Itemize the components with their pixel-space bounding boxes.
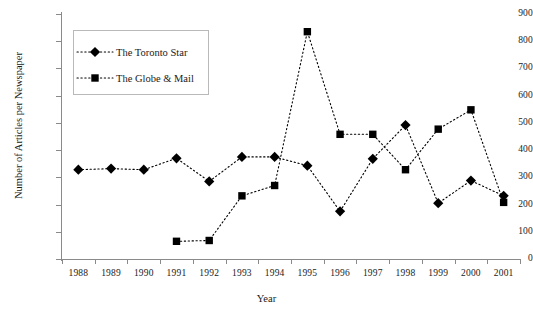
diamond-marker	[400, 120, 410, 130]
legend-label: The Toronto Star	[116, 47, 187, 58]
diamond-marker	[90, 47, 100, 57]
x-tick-mark	[62, 259, 63, 264]
square-marker	[467, 106, 474, 113]
x-tick-mark	[160, 259, 161, 264]
square-marker	[271, 182, 278, 189]
square-marker	[369, 131, 376, 138]
x-tick-mark	[193, 259, 194, 264]
legend-label: The Globe & Mail	[116, 73, 194, 84]
diamond-marker	[139, 165, 149, 175]
square-marker	[206, 237, 213, 244]
diamond-marker	[73, 165, 83, 175]
x-tick-mark	[127, 259, 128, 264]
square-marker	[173, 238, 180, 245]
x-tick-mark	[520, 259, 521, 264]
diamond-marker	[433, 198, 443, 208]
series-toronto-star	[73, 120, 508, 216]
square-marker	[435, 125, 442, 132]
diamond-marker	[171, 153, 181, 163]
legend-marker-sample	[74, 72, 116, 84]
x-tick-mark	[422, 259, 423, 264]
legend-entry: The Globe & Mail	[74, 69, 210, 87]
x-tick-mark	[324, 259, 325, 264]
x-tick-mark	[487, 259, 488, 264]
diamond-marker	[466, 176, 476, 186]
square-marker	[304, 28, 311, 35]
legend-marker-sample	[74, 46, 116, 58]
x-tick-mark	[389, 259, 390, 264]
diamond-marker	[302, 161, 312, 171]
diamond-marker	[237, 152, 247, 162]
diamond-marker	[335, 206, 345, 216]
x-axis-title: Year	[0, 293, 533, 304]
x-tick-mark	[258, 259, 259, 264]
chart-legend: The Toronto StarThe Globe & Mail	[73, 30, 209, 95]
x-tick-mark	[95, 259, 96, 264]
square-marker	[238, 192, 245, 199]
legend-entry: The Toronto Star	[74, 43, 210, 61]
square-marker	[500, 199, 507, 206]
x-tick-mark	[291, 259, 292, 264]
square-marker	[91, 74, 98, 81]
square-marker	[336, 131, 343, 138]
diamond-marker	[270, 152, 280, 162]
diamond-marker	[106, 164, 116, 174]
y-axis-title: Number of Articles per Newspaper	[13, 26, 24, 226]
line-chart: 9008007006005004003002001000 19881989199…	[0, 0, 533, 320]
x-tick-mark	[356, 259, 357, 264]
diamond-marker	[204, 176, 214, 186]
x-tick-mark	[455, 259, 456, 264]
x-tick-label: 2001	[482, 268, 526, 278]
x-tick-mark	[226, 259, 227, 264]
square-marker	[402, 166, 409, 173]
